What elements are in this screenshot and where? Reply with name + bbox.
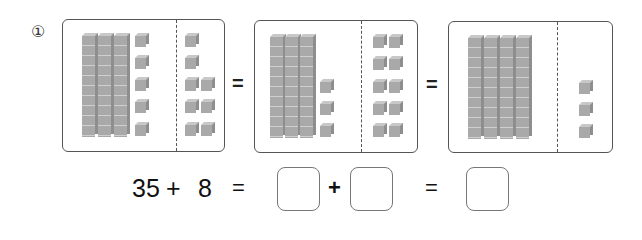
unit-cube [389, 126, 400, 137]
tens-rod [114, 36, 127, 137]
unit-cube [320, 104, 331, 115]
answer-box-3[interactable] [466, 167, 509, 211]
unit-cube [185, 125, 196, 136]
addend-2: 8 [198, 173, 212, 203]
tens-rod [285, 37, 298, 138]
panel-equals-2: = [426, 73, 438, 96]
unit-cube [389, 37, 400, 48]
panel-2-divider [361, 21, 362, 152]
tens-rod [300, 37, 313, 138]
unit-cube [185, 58, 196, 69]
plus-sign-1: + [166, 173, 181, 203]
answer-box-1[interactable] [277, 167, 320, 211]
unit-cube [135, 102, 146, 113]
unit-cube [135, 58, 146, 69]
tens-rod [516, 38, 529, 139]
unit-cube [201, 80, 212, 91]
tens-rod [98, 36, 111, 137]
unit-cube [320, 126, 331, 137]
tens-rod [500, 38, 513, 139]
panel-equals-1: = [232, 72, 244, 95]
unit-cube [320, 82, 331, 93]
unit-cube [135, 125, 146, 136]
tens-rod [270, 37, 283, 138]
unit-cube [201, 125, 212, 136]
unit-cube [579, 105, 590, 116]
tens-rod [82, 36, 95, 137]
panel-3-divider [557, 22, 558, 152]
unit-cube [373, 104, 384, 115]
unit-cube [373, 59, 384, 70]
unit-cube [201, 102, 212, 113]
unit-cube [389, 59, 400, 70]
unit-cube [373, 126, 384, 137]
tens-rod [484, 38, 497, 139]
panel-1-divider [176, 20, 177, 151]
tens-rod [468, 38, 481, 139]
unit-cube [389, 82, 400, 93]
addend-1: 35 [132, 173, 160, 203]
equals-sign-2: = [425, 173, 438, 203]
plus-sign-2: + [328, 173, 341, 203]
unit-cube [579, 83, 590, 94]
unit-cube [373, 82, 384, 93]
unit-cube [185, 102, 196, 113]
equals-sign-1: = [232, 173, 245, 203]
unit-cube [579, 127, 590, 138]
unit-cube [135, 36, 146, 47]
answer-box-2[interactable] [350, 167, 393, 211]
unit-cube [185, 80, 196, 91]
unit-cube [185, 36, 196, 47]
unit-cube [389, 104, 400, 115]
unit-cube [135, 80, 146, 91]
problem-number: ① [31, 22, 45, 41]
unit-cube [373, 37, 384, 48]
